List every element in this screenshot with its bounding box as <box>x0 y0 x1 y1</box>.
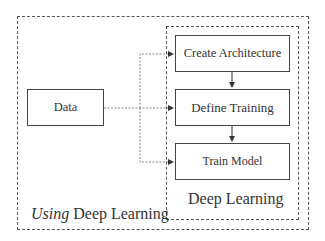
define-training-node: Define Training <box>175 89 290 126</box>
deep-learning-text: Deep Learning <box>69 205 169 222</box>
data-node-label: Data <box>54 100 78 115</box>
train-model-label: Train Model <box>203 154 263 169</box>
create-architecture-node: Create Architecture <box>175 35 290 72</box>
create-architecture-label: Create Architecture <box>184 46 282 61</box>
train-model-node: Train Model <box>175 143 290 180</box>
define-training-label: Define Training <box>191 100 274 116</box>
using-italic-text: Using <box>31 205 69 222</box>
deep-learning-label: Deep Learning <box>188 190 284 208</box>
using-deep-learning-label: Using Deep Learning <box>31 205 169 223</box>
data-node: Data <box>27 89 104 126</box>
